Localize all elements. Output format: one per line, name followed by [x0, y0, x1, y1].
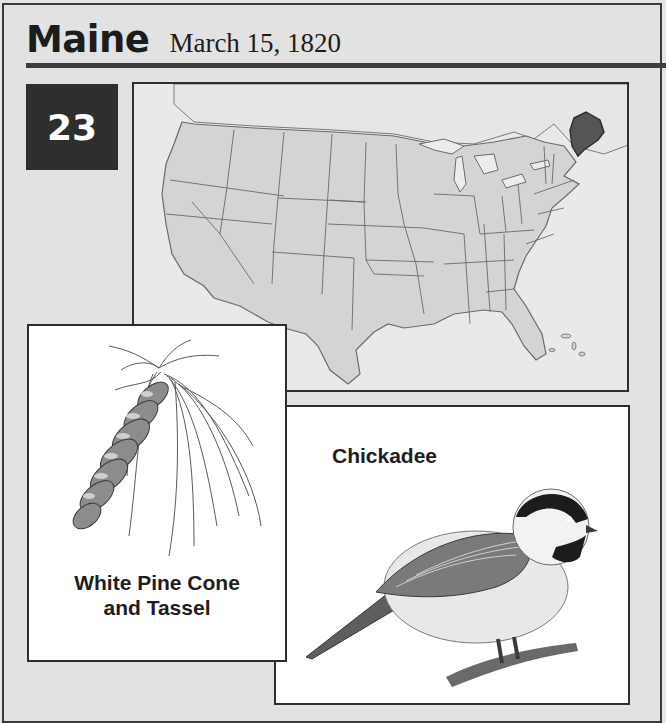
bird-caption: Chickadee [332, 444, 437, 468]
state-name: Maine [26, 18, 149, 61]
pine-cone-icon [29, 326, 287, 566]
admission-date: March 15, 1820 [169, 28, 341, 59]
title-row: Maine March 15, 1820 [26, 18, 341, 62]
state-bird-card: Chickadee [274, 405, 630, 705]
statehood-order-badge: 23 [26, 84, 118, 170]
state-tree-card: White Pine Cone and Tassel [27, 324, 287, 662]
tree-caption: White Pine Cone and Tassel [29, 570, 285, 620]
heading-rule [26, 63, 666, 68]
tree-caption-line2: and Tassel [29, 595, 285, 620]
order-number: 23 [47, 107, 97, 148]
chickadee-icon [276, 407, 630, 705]
tree-caption-line1: White Pine Cone [29, 570, 285, 595]
